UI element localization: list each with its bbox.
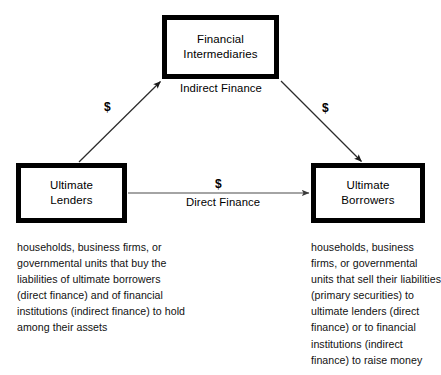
edge-label-indirect-finance: Indirect Finance (180, 82, 262, 94)
caption-ultimate-lenders: households, business firms, or governmen… (17, 239, 187, 336)
money-symbol-lenders-to-intermediaries: $ (104, 100, 111, 114)
arrow-intermediaries-to-borrowers (281, 81, 362, 162)
flow-of-funds-diagram: Financial Intermediaries Ultimate Lender… (0, 0, 441, 375)
node-ultimate-borrowers-label: Ultimate Borrowers (341, 178, 394, 208)
caption-ultimate-borrowers: households, business firms, or governmen… (311, 239, 441, 368)
node-financial-intermediaries: Financial Intermediaries (162, 15, 279, 79)
node-ultimate-borrowers: Ultimate Borrowers (311, 163, 425, 223)
node-ultimate-lenders-label: Ultimate Lenders (50, 178, 93, 208)
money-symbol-intermediaries-to-borrowers: $ (322, 101, 329, 115)
node-ultimate-lenders: Ultimate Lenders (16, 163, 127, 223)
edge-label-direct-finance: Direct Finance (186, 196, 260, 208)
node-financial-intermediaries-label: Financial Intermediaries (183, 32, 257, 62)
money-symbol-lenders-to-borrowers: $ (215, 177, 222, 191)
arrow-lenders-to-intermediaries (79, 82, 161, 163)
